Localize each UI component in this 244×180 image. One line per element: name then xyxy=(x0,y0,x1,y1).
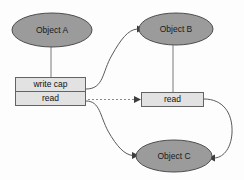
object-a-label: Object A xyxy=(36,25,68,35)
object-b-label: Object B xyxy=(160,24,193,34)
read-box-b-label: read xyxy=(164,94,181,104)
edge-write-cap-to-object-b xyxy=(86,29,137,89)
arrowhead-to-read-box xyxy=(134,96,141,103)
object-c-label: Object C xyxy=(157,151,190,161)
edge-read-to-object-c xyxy=(86,101,133,156)
node-object-b[interactable]: Object B xyxy=(139,13,213,45)
diagram-canvas: Object A Object B Object C write cap rea… xyxy=(0,0,244,180)
capability-box-b[interactable]: read xyxy=(142,93,204,107)
node-object-c[interactable]: Object C xyxy=(136,140,212,172)
capability-table-a[interactable]: write cap read xyxy=(16,78,86,106)
read-row-label: read xyxy=(42,93,59,103)
write-cap-row-label: write cap xyxy=(32,79,67,89)
node-object-a[interactable]: Object A xyxy=(12,13,92,47)
diagram-svg: Object A Object B Object C write cap rea… xyxy=(0,0,244,180)
